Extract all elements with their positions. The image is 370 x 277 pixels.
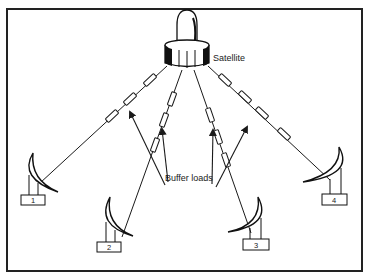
buffer-loads: [105, 73, 291, 167]
satellite-network-diagram: Satellite Buffer loads 1: [0, 0, 370, 277]
station-4-label: 4: [332, 196, 336, 205]
station-1-label: 1: [31, 196, 35, 205]
station-1-dish-icon: [21, 153, 58, 205]
satellite-label: Satellite: [213, 53, 245, 63]
station-3-dish-icon: [228, 197, 269, 250]
links: [40, 66, 330, 237]
station-3-label: 3: [254, 241, 258, 250]
satellite-icon: [165, 10, 209, 68]
station-2-label: 2: [107, 243, 111, 252]
station-4-dish-icon: [303, 147, 347, 205]
station-2-dish-icon: [97, 197, 133, 252]
buffer-loads-label: Buffer loads: [165, 173, 213, 183]
